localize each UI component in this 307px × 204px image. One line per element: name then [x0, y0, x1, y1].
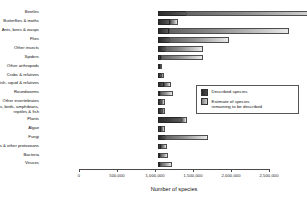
category-label: Other insects	[0, 46, 39, 51]
legend-item-remaining: Estimate of species remaining to be desc…	[201, 98, 295, 108]
x-tick	[79, 169, 80, 172]
stacked-bar	[158, 82, 171, 87]
stacked-bar	[158, 117, 187, 122]
category-label: Algae	[0, 126, 39, 131]
legend-item-described: Described species	[201, 89, 295, 96]
category-label: Other invertebrates	[0, 99, 39, 104]
x-tick-label: 2,000,000	[221, 173, 240, 178]
category-label: Butterflies & moths	[0, 19, 39, 24]
stacked-bar	[158, 55, 203, 60]
bar-segment-remaining	[161, 73, 164, 78]
category-label: Viruses	[0, 161, 39, 166]
stacked-bar	[158, 126, 165, 131]
stacked-bar	[158, 135, 208, 140]
category-label: Bacteria	[0, 153, 39, 158]
category-label: Shellfish, squid & relatives	[0, 81, 39, 86]
stacked-bar	[158, 99, 165, 104]
stacked-bar	[158, 108, 165, 113]
bar-segment-remaining	[161, 99, 165, 104]
x-tick-label: 0	[78, 173, 80, 178]
stacked-bar	[158, 153, 168, 158]
category-label: Flies	[0, 37, 39, 42]
bar-segment-remaining	[169, 37, 229, 42]
bar-segment-described	[158, 117, 182, 122]
stacked-bar	[158, 91, 173, 96]
bar-segment-described	[158, 11, 187, 16]
category-label: Ants, bees & wasps	[0, 28, 39, 33]
bar-segment-remaining	[161, 55, 203, 60]
stacked-bar	[158, 19, 178, 24]
bar-row: Algae	[79, 125, 269, 134]
x-tick-label: 1,000,000	[145, 173, 164, 178]
swatch-remaining-icon	[201, 98, 208, 105]
bar-segment-remaining	[161, 126, 165, 131]
x-tick	[269, 169, 270, 172]
bar-segment-remaining	[160, 153, 168, 158]
x-tick-label: 1,500,000	[183, 173, 202, 178]
stacked-bar	[158, 11, 307, 16]
stacked-bar	[158, 73, 164, 78]
bar-row: Ants, bees & wasps	[79, 27, 269, 36]
stacked-bar	[158, 64, 162, 69]
category-label: Amoebas & other protozoans	[0, 144, 39, 149]
category-label: Plants	[0, 117, 39, 122]
category-label: Crabs & relatives	[0, 73, 39, 78]
bar-segment-remaining	[162, 108, 164, 113]
x-tick	[117, 169, 118, 172]
category-label: Mammals, birds, amphibians, reptiles & f…	[0, 105, 39, 114]
bar-segment-remaining	[186, 11, 307, 16]
bar-segment-described	[158, 19, 170, 24]
category-label: Other arthropods	[0, 64, 39, 69]
x-tick	[155, 169, 156, 172]
bar-segment-remaining	[164, 82, 171, 87]
bar-row: Spiders	[79, 53, 269, 62]
bar-row: Beetles	[79, 9, 269, 18]
stacked-bar	[158, 28, 289, 33]
legend: Described species Estimate of species re…	[196, 85, 299, 114]
bar-segment-remaining	[160, 64, 162, 69]
x-tick-label: 2,500,000	[259, 173, 278, 178]
bar-segment-remaining	[170, 19, 179, 24]
stacked-bar	[158, 162, 172, 167]
bar-row: Butterflies & moths	[79, 18, 269, 27]
species-count-chart: BeetlesButterflies & mothsAnts, bees & w…	[0, 0, 307, 204]
legend-label-remaining: Estimate of species remaining to be desc…	[212, 98, 263, 108]
bar-row: Flies	[79, 36, 269, 45]
x-tick	[231, 169, 232, 172]
bar-segment-remaining	[160, 162, 173, 167]
bar-row: Viruses	[79, 160, 269, 169]
bar-row: Plants	[79, 116, 269, 125]
bar-row: Fungi	[79, 133, 269, 142]
legend-label-described: Described species	[212, 89, 248, 94]
stacked-bar	[158, 46, 203, 51]
bar-segment-remaining	[169, 28, 289, 33]
bar-segment-remaining	[165, 135, 208, 140]
bar-row: Crabs & relatives	[79, 71, 269, 80]
bar-segment-described	[158, 37, 170, 42]
category-label: Beetles	[0, 10, 39, 15]
bar-segment-remaining	[161, 144, 167, 149]
bar-row: Other insects	[79, 45, 269, 54]
x-axis-line	[79, 169, 269, 170]
bar-row: Amoebas & other protozoans	[79, 142, 269, 151]
bar-segment-remaining	[181, 117, 187, 122]
x-axis-label: Number of species	[79, 186, 269, 192]
bar-segment-remaining	[160, 91, 174, 96]
bar-segment-remaining	[165, 46, 203, 51]
x-tick	[193, 169, 194, 172]
bar-row: Bacteria	[79, 151, 269, 160]
swatch-described-icon	[201, 89, 208, 96]
stacked-bar	[158, 37, 229, 42]
bar-segment-described	[158, 28, 169, 33]
x-tick-label: 500,000	[109, 173, 125, 178]
category-label: Fungi	[0, 135, 39, 140]
stacked-bar	[158, 144, 167, 149]
bar-row: Other arthropods	[79, 62, 269, 71]
category-label: Spiders	[0, 55, 39, 60]
category-label: Roundworms	[0, 90, 39, 95]
